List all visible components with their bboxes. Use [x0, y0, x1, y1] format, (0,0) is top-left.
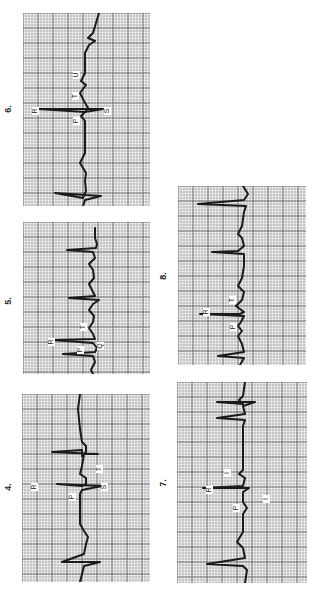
wave-label-p: P [68, 494, 75, 499]
ecg-grid-paper: RPII [177, 382, 307, 583]
ecg-strip-8: RPT [178, 186, 306, 365]
ecg-grid-paper: RPTUS [23, 13, 150, 206]
wave-label-r: R [30, 484, 37, 489]
wave-label-i: I [223, 472, 230, 474]
ecg-grid-paper: RPT [178, 186, 306, 365]
ecg-strip-6: RPTUS [23, 13, 150, 206]
wave-label-t: T [228, 297, 235, 302]
ecg-grid-paper: RPTQ [23, 222, 150, 374]
wave-label-p: P [232, 505, 239, 510]
wave-label-r: R [205, 487, 212, 492]
wave-label-p: P [72, 118, 79, 123]
figure-number-4: 4. [3, 483, 13, 491]
wave-label-i: I [262, 498, 269, 500]
ecg-strip-5: RPTQ [23, 222, 150, 374]
wave-label-r: R [31, 108, 38, 113]
figure-number-8: 8. [158, 272, 168, 280]
wave-label-s: S [100, 484, 107, 489]
wave-label-t: T [71, 93, 78, 98]
wave-label-r: R [47, 339, 54, 344]
wave-label-p: P [76, 347, 83, 352]
ecg-grid-paper: RPTS [22, 394, 150, 582]
wave-label-u: U [72, 72, 79, 77]
wave-label-t: T [79, 324, 86, 329]
wave-label-p: P [229, 324, 236, 329]
ecg-strip-7: RPII [177, 382, 307, 583]
wave-label-r: R [202, 309, 209, 314]
figure-number-6: 6. [3, 105, 13, 113]
figure-number-5: 5. [3, 297, 13, 305]
wave-label-q: Q [96, 343, 104, 349]
wave-label-t: T [95, 466, 102, 471]
ecg-strip-4: RPTS [22, 394, 150, 582]
figure-number-7: 7. [158, 479, 168, 487]
wave-label-s: S [103, 108, 110, 113]
